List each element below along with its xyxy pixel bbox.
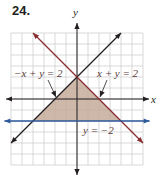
x-axis-label: x (150, 93, 156, 105)
y-axis-label: y (72, 6, 78, 18)
y-axis-arrow-icon (74, 169, 79, 175)
x-axis-arrow-icon (143, 96, 149, 101)
y-axis-arrow-icon (74, 23, 79, 29)
line-arrow-icon (4, 118, 10, 123)
label-neg-x-plus-y-eq-2: −x + y = 2 (14, 67, 63, 79)
line-arrow-icon (144, 118, 150, 123)
label-x-plus-y-eq-2: x + y = 2 (96, 67, 139, 79)
coordinate-plane: xy−x + y = 2x + y = 2y = −2 (0, 0, 161, 184)
x-axis-arrow-icon (6, 96, 12, 101)
label-y-eq-neg-2: y = −2 (82, 124, 114, 136)
axes (6, 23, 149, 175)
